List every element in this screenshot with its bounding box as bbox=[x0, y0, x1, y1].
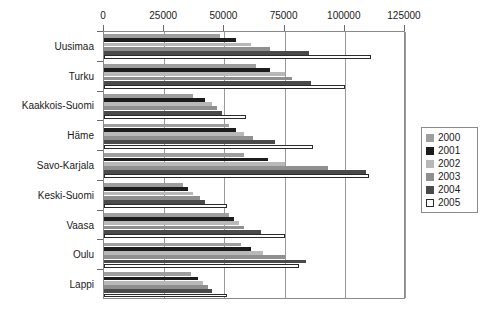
legend-item: 2000 bbox=[426, 131, 473, 144]
x-tick-label: 0 bbox=[100, 10, 106, 22]
gridline bbox=[405, 32, 406, 298]
legend-item: 2004 bbox=[426, 183, 473, 196]
x-axis-tick-labels: 0250005000075000100000125000 bbox=[0, 10, 486, 24]
gridline bbox=[345, 32, 346, 298]
bar bbox=[104, 174, 369, 178]
y-category-label: Häme bbox=[67, 130, 94, 141]
y-axis-category-labels: UusimaaTurkuKaakkois-SuomiHämeSavo-Karja… bbox=[0, 31, 99, 299]
bar bbox=[104, 145, 313, 149]
x-tick-label: 100000 bbox=[327, 10, 360, 22]
y-category-label: Uusimaa bbox=[55, 40, 94, 51]
legend-label: 2003 bbox=[438, 171, 460, 182]
bar bbox=[104, 115, 246, 119]
bar bbox=[104, 204, 227, 208]
x-tick-label: 50000 bbox=[209, 10, 237, 22]
y-category-label: Turku bbox=[69, 70, 94, 81]
legend-label: 2002 bbox=[438, 158, 460, 169]
legend-label: 2004 bbox=[438, 184, 460, 195]
gridline bbox=[285, 32, 286, 298]
bar bbox=[104, 85, 345, 89]
chart-legend: 200020012002200320042005 bbox=[421, 127, 478, 213]
legend-item: 2003 bbox=[426, 170, 473, 183]
legend-swatch-icon bbox=[426, 173, 434, 181]
bar-chart: 0250005000075000100000125000 UusimaaTurk… bbox=[0, 0, 486, 324]
plot-area bbox=[103, 31, 405, 299]
y-category-label: Oulu bbox=[73, 249, 94, 260]
x-tick-label: 75000 bbox=[270, 10, 298, 22]
legend-swatch-icon bbox=[426, 186, 434, 194]
legend-swatch-icon bbox=[426, 199, 434, 207]
legend-swatch-icon bbox=[426, 134, 434, 142]
legend-item: 2001 bbox=[426, 144, 473, 157]
legend-label: 2001 bbox=[438, 145, 460, 156]
bar bbox=[104, 264, 299, 268]
legend-swatch-icon bbox=[426, 160, 434, 168]
x-tick-label: 125000 bbox=[387, 10, 420, 22]
legend-swatch-icon bbox=[426, 147, 434, 155]
y-category-label: Keski-Suomi bbox=[38, 189, 94, 200]
legend-item: 2005 bbox=[426, 196, 473, 209]
bar bbox=[104, 294, 227, 298]
legend-label: 2005 bbox=[438, 197, 460, 208]
y-category-label: Lappi bbox=[70, 279, 94, 290]
bar bbox=[104, 234, 285, 238]
bar bbox=[104, 55, 371, 59]
legend-label: 2000 bbox=[438, 132, 460, 143]
y-category-label: Vaasa bbox=[66, 219, 94, 230]
y-category-label: Kaakkois-Suomi bbox=[22, 100, 94, 111]
legend-item: 2002 bbox=[426, 157, 473, 170]
x-tick-label: 25000 bbox=[149, 10, 177, 22]
y-category-label: Savo-Karjala bbox=[37, 160, 94, 171]
